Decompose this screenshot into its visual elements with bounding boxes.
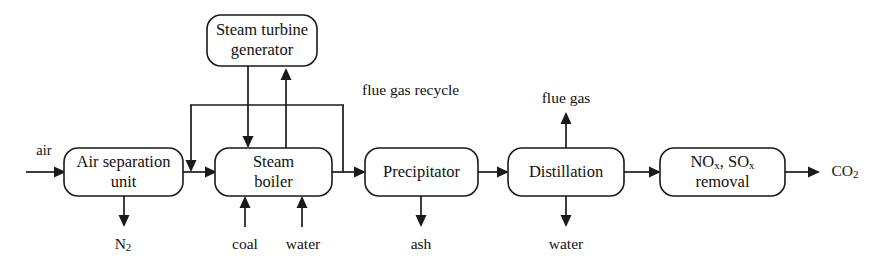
sox-subscript: x (749, 159, 755, 171)
stream-label-air: air (36, 142, 51, 158)
stream-co2-outlet-line (785, 167, 820, 178)
stream-boiler-to-precipitator (332, 167, 366, 178)
node-distillation[interactable]: Distillation (508, 148, 624, 196)
co2-text: CO (831, 162, 853, 179)
co2-subscript: 2 (853, 168, 859, 180)
stream-water-inlet-line (297, 196, 308, 227)
node-nox-sox-removal[interactable]: NOx, SOx removal (660, 148, 785, 196)
stream-precipitator-to-distillation (478, 167, 509, 178)
node-steam-boiler[interactable]: Steam boiler (215, 148, 332, 196)
stream-label-co2: CO2 (831, 162, 858, 180)
node-steam-turbine-generator[interactable]: Steam turbine generator (207, 15, 317, 66)
precipitator-label: Precipitator (383, 162, 460, 181)
steam-turbine-generator-label-line2: generator (231, 40, 294, 59)
stream-distillation-to-nox-sox (624, 167, 661, 178)
nitrogen-text: N (115, 235, 126, 252)
stream-asu-to-boiler (183, 167, 217, 178)
air-separation-unit-label-line1: Air separation (77, 152, 171, 171)
stream-label-flue-gas: flue gas (542, 89, 591, 106)
stream-ash-outlet-line (416, 196, 427, 227)
stream-air-inlet (26, 167, 66, 178)
node-precipitator[interactable]: Precipitator (365, 148, 478, 196)
stream-label-ash: ash (411, 235, 432, 252)
stream-label-nitrogen: N2 (115, 235, 132, 253)
steam-boiler-label-line2: boiler (254, 172, 293, 191)
nox-sox-removal-label-line2: removal (695, 172, 749, 191)
stream-nitrogen-outlet-line (119, 196, 130, 227)
stream-label-flue-gas-recycle: flue gas recycle (362, 81, 459, 98)
nox-text: NO (690, 152, 714, 171)
distillation-label: Distillation (529, 162, 603, 181)
nox-sox-removal-label-line1: NOx, SOx (690, 152, 755, 171)
node-air-separation-unit[interactable]: Air separation unit (64, 148, 183, 196)
flow-diagram-canvas: Steam turbine generator Air separation u… (0, 0, 873, 270)
stream-label-water-inlet: water (286, 235, 321, 252)
stream-turbine-to-boiler-line (243, 66, 254, 148)
stream-label-water-outlet: water (549, 235, 584, 252)
stream-coal-inlet-line (240, 196, 251, 227)
stream-boiler-to-turbine-line (281, 68, 292, 148)
steam-boiler-label-line1: Steam (253, 152, 294, 171)
sox-separator: , SO (720, 152, 749, 171)
air-separation-unit-label-line2: unit (111, 172, 137, 191)
stream-distillation-water-outlet-line (561, 196, 572, 227)
stream-label-coal: coal (232, 235, 258, 252)
nitrogen-subscript: 2 (126, 241, 132, 253)
stream-flue-gas-outlet-line (561, 112, 572, 148)
process-flow-diagram: Steam turbine generator Air separation u… (0, 0, 873, 270)
steam-turbine-generator-label-line1: Steam turbine (216, 20, 308, 39)
